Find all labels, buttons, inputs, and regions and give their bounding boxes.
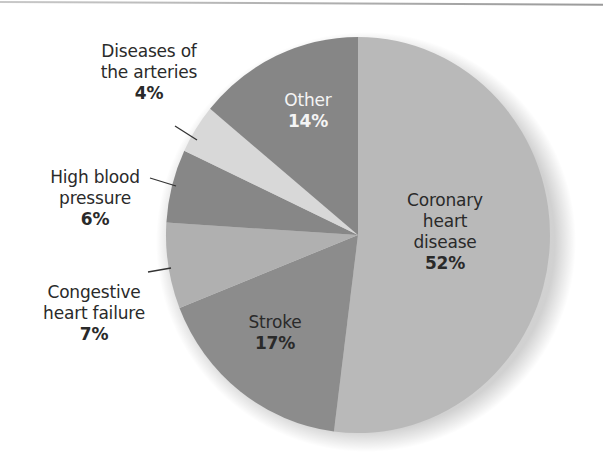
label-stroke-line1: Stroke	[249, 312, 302, 332]
label-coronary-line3: disease	[413, 232, 476, 252]
label-congestive-pct: 7%	[24, 324, 164, 345]
label-congestive-line2: heart failure	[43, 303, 145, 323]
label-congestive: Congestive heart failure 7%	[24, 282, 164, 345]
label-high-bp: High blood pressure 6%	[30, 167, 160, 230]
label-stroke-pct: 17%	[230, 333, 320, 354]
label-high-bp-pct: 6%	[30, 209, 160, 230]
label-congestive-line1: Congestive	[47, 282, 140, 302]
label-coronary-line2: heart	[423, 211, 467, 231]
label-arteries-line2: the arteries	[101, 62, 197, 82]
label-arteries: Diseases of the arteries 4%	[84, 41, 214, 104]
label-coronary: Coronary heart disease 52%	[390, 190, 500, 274]
label-stroke: Stroke 17%	[230, 312, 320, 354]
label-other-pct: 14%	[258, 111, 358, 132]
label-coronary-pct: 52%	[390, 253, 500, 274]
label-high-bp-line2: pressure	[59, 188, 131, 208]
label-other-line1: Other	[284, 90, 331, 110]
label-high-bp-line1: High blood	[50, 167, 140, 187]
label-other: Other 14%	[258, 90, 358, 132]
label-arteries-pct: 4%	[84, 83, 214, 104]
label-coronary-line1: Coronary	[407, 190, 483, 210]
label-arteries-line1: Diseases of	[101, 41, 196, 61]
